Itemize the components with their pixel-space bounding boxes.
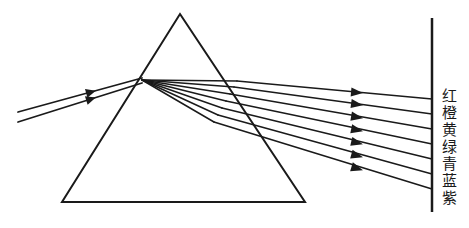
- dispersed-ray-1: [237, 81, 432, 99]
- dispersed-ray-arrowhead-5: [350, 137, 364, 149]
- incident-ray-arrowhead-1: [85, 86, 97, 97]
- spectrum-label-orange: 橙: [442, 105, 457, 122]
- prism-triangle: [62, 14, 305, 202]
- spectrum-label-green: 绿: [442, 139, 457, 156]
- spectrum-label-cyan: 青: [442, 156, 457, 173]
- spectrum-color-labels: 红 橙 黄 绿 青 蓝 紫: [437, 88, 461, 207]
- optics-ray-svg: [0, 0, 469, 228]
- spectrum-label-violet: 紫: [442, 190, 457, 207]
- spectrum-label-yellow: 黄: [442, 122, 457, 139]
- prism-dispersion-diagram: 红 橙 黄 绿 青 蓝 紫: [0, 0, 469, 228]
- prism-outline: [62, 14, 305, 202]
- spectrum-label-red: 红: [442, 88, 457, 105]
- incident-ray-1: [18, 78, 142, 112]
- incident-beam-group: [18, 78, 142, 122]
- dispersed-ray-arrowhead-1: [351, 87, 364, 97]
- dispersed-ray-arrowhead-6: [350, 150, 364, 162]
- dispersed-rays-group: [214, 81, 432, 189]
- dispersed-ray-4: [226, 101, 432, 144]
- spectrum-label-blue: 蓝: [442, 173, 457, 190]
- dispersed-ray-3: [230, 94, 432, 129]
